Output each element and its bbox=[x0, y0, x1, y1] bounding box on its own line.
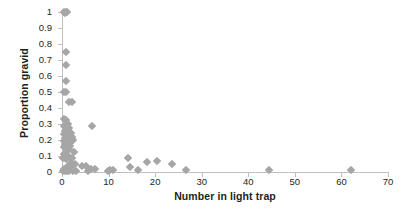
y-tick-label: 0.3 bbox=[0, 119, 52, 129]
x-tick-label: 0 bbox=[42, 176, 82, 187]
y-tick-label: 0.6 bbox=[0, 71, 52, 81]
y-tick-label: 0.5 bbox=[0, 87, 52, 97]
plot-area bbox=[62, 12, 388, 172]
y-tick-label: 0.9 bbox=[0, 23, 52, 33]
y-tick-label: 0.1 bbox=[0, 151, 52, 161]
y-tick-label: 0.4 bbox=[0, 103, 52, 113]
x-tick-label: 30 bbox=[182, 176, 222, 187]
x-tick-label: 10 bbox=[89, 176, 129, 187]
x-tick-label: 70 bbox=[368, 176, 406, 187]
y-tick-label: 1 bbox=[0, 7, 52, 17]
y-tick-label: 0.7 bbox=[0, 55, 52, 65]
y-tick-label: 0.8 bbox=[0, 39, 52, 49]
x-axis-title: Number in light trap bbox=[62, 190, 388, 202]
x-tick-label: 40 bbox=[228, 176, 268, 187]
y-tick-label: 0.2 bbox=[0, 135, 52, 145]
data-point bbox=[103, 167, 111, 175]
x-tick-label: 20 bbox=[135, 176, 175, 187]
scatter-plot-figure: Proportion gravid Number in light trap 0… bbox=[0, 0, 406, 218]
x-tick-label: 60 bbox=[321, 176, 361, 187]
x-tick-label: 50 bbox=[275, 176, 315, 187]
